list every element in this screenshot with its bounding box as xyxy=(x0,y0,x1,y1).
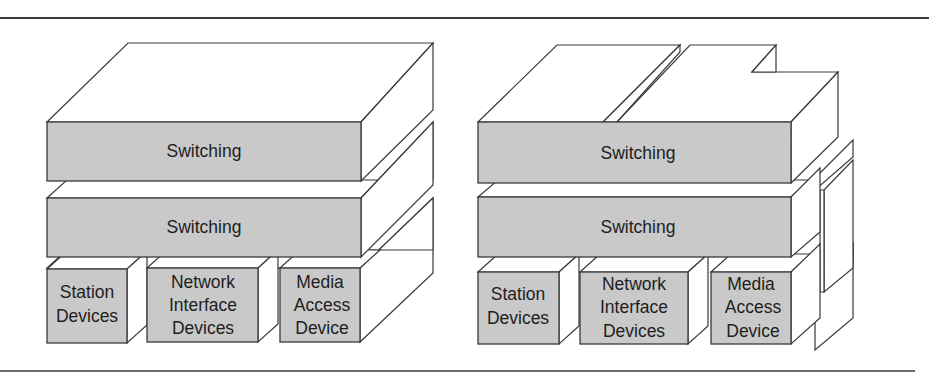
left-device-media-label-2: Access xyxy=(294,295,351,315)
right-device-media-label-1: Media xyxy=(727,274,775,294)
left-stack: Station Devices Network Interface Device… xyxy=(47,43,433,343)
left-switching-layer-2-label: Switching xyxy=(167,217,242,237)
right-stack: Station Devices Network Interface Device… xyxy=(478,45,853,350)
left-device-station: Station Devices xyxy=(47,251,147,343)
left-device-network-label-2: Interface xyxy=(169,295,237,315)
left-switching-layer-1: Switching xyxy=(47,43,433,181)
right-device-station: Station Devices xyxy=(478,254,579,344)
switching-architecture-diagram: Station Devices Network Interface Device… xyxy=(0,0,929,378)
right-device-station-label-2: Devices xyxy=(487,308,549,328)
right-switching-layer-2-label: Switching xyxy=(601,217,676,237)
right-device-media-access: Media Access Device xyxy=(711,244,820,344)
right-device-network-label-2: Interface xyxy=(600,297,668,317)
right-switching-layer-1-label: Switching xyxy=(601,143,676,163)
right-device-network-label-1: Network xyxy=(602,274,666,294)
right-switching-layer-1: Switching xyxy=(478,45,838,183)
left-device-network-interface: Network Interface Devices xyxy=(147,250,278,342)
left-device-station-label-1: Station xyxy=(60,282,114,302)
right-device-station-label-1: Station xyxy=(491,284,545,304)
left-device-media-label-1: Media xyxy=(296,272,344,292)
right-device-media-label-3: Device xyxy=(726,321,780,341)
right-device-network-label-3: Devices xyxy=(603,321,665,341)
left-device-network-label-1: Network xyxy=(171,272,235,292)
right-device-network-interface: Network Interface Devices xyxy=(580,254,708,344)
left-device-station-label-2: Devices xyxy=(56,306,118,326)
left-device-media-label-3: Device xyxy=(295,318,349,338)
left-switching-layer-1-label: Switching xyxy=(167,141,242,161)
left-device-network-label-3: Devices xyxy=(172,318,234,338)
right-device-media-label-2: Access xyxy=(725,297,782,317)
